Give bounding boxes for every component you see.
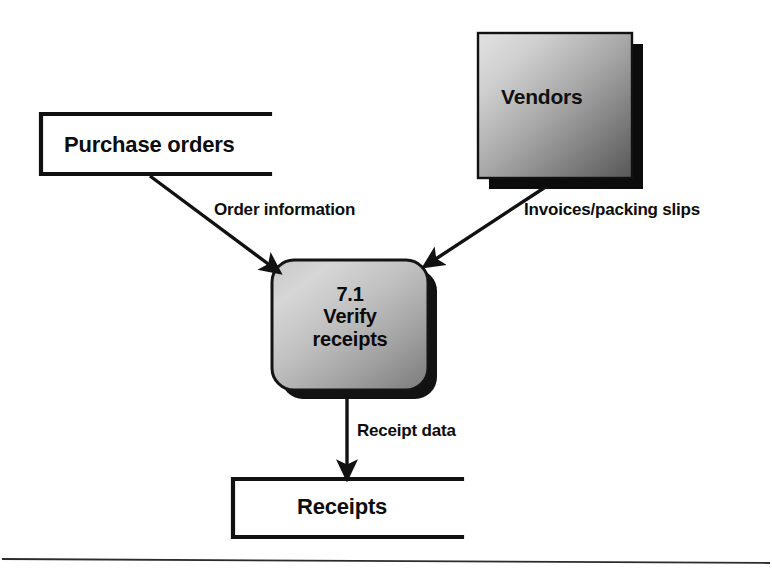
- flow-arrow-invoices-packing-slips: [425, 186, 547, 266]
- flow-arrow-order-information: [150, 176, 279, 272]
- page-footer-rule: [2, 559, 770, 563]
- vendors-entity: [478, 33, 643, 189]
- process-label-number: 7.1: [282, 283, 418, 305]
- purchase-orders-label: Purchase orders: [64, 133, 235, 158]
- receipts-label: Receipts: [297, 495, 387, 520]
- flow-label-order-information: Order information: [214, 200, 355, 219]
- flow-label-receipt-data: Receipt data: [357, 421, 456, 440]
- flow-label-invoices-packing-slips: Invoices/packing slips: [524, 200, 700, 219]
- process-label-verb: Verify: [282, 305, 418, 327]
- diagram-canvas: Purchase orders Vendors 7.1 Verify recei…: [0, 0, 772, 582]
- process-label: 7.1 Verify receipts: [282, 283, 418, 350]
- process-label-object: receipts: [282, 328, 418, 350]
- vendors-label: Vendors: [501, 85, 582, 109]
